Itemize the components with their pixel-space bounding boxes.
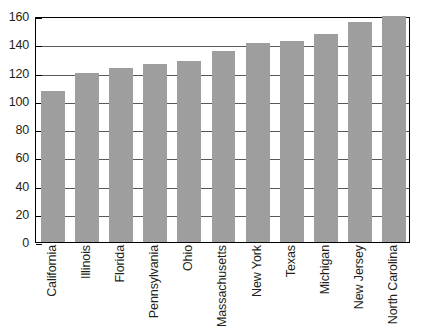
bar: [314, 34, 338, 242]
y-axis-tick-label: 80: [0, 124, 29, 136]
x-axis-tick-label: California: [46, 245, 59, 297]
bar: [75, 73, 99, 243]
bar: [143, 64, 167, 242]
x-axis-tick-label: Florida: [114, 245, 127, 283]
y-axis-tick-label: 0: [0, 237, 29, 249]
bar: [41, 91, 65, 242]
y-axis-tick-label: 140: [0, 39, 29, 51]
y-axis-tick-label: 40: [0, 181, 29, 193]
x-axis-tick-label: New York: [250, 245, 263, 297]
bar: [212, 51, 236, 242]
x-axis-tick-label: New Jersey: [353, 245, 366, 309]
x-axis-tick: California: [35, 245, 69, 324]
bar: [246, 43, 270, 242]
x-axis-tick: Massachusetts: [205, 245, 239, 324]
y-axis-tick-label: 20: [0, 209, 29, 221]
y-axis-labels: 160140120100806040200: [0, 17, 29, 243]
x-axis-tick-label: Massachusetts: [216, 245, 229, 327]
bars-layer: [36, 18, 409, 242]
x-axis-tick: Illinois: [69, 245, 103, 324]
bar: [177, 61, 201, 242]
y-axis-tick-label: 120: [0, 68, 29, 80]
x-axis-tick-label: Michigan: [319, 245, 332, 294]
x-axis-tick-label: Texas: [284, 245, 297, 277]
x-axis-tick: New Jersey: [342, 245, 376, 324]
y-axis-tick-label: 60: [0, 152, 29, 164]
bar: [109, 68, 133, 242]
x-axis-tick-label: Pennsylvania: [148, 245, 161, 318]
x-axis-tick: Ohio: [171, 245, 205, 324]
x-axis-tick: Texas: [274, 245, 308, 324]
bar: [280, 41, 304, 242]
plot-area: [35, 17, 410, 243]
bar: [348, 22, 372, 242]
x-axis-tick: Florida: [103, 245, 137, 324]
x-axis-tick: North Carolina: [376, 245, 410, 324]
x-axis-tick: Pennsylvania: [137, 245, 171, 324]
y-axis-tick-label: 160: [0, 11, 29, 23]
bar: [382, 16, 406, 242]
y-axis-tick-label: 100: [0, 96, 29, 108]
x-axis-tick-label: Ohio: [182, 245, 195, 271]
x-axis-labels: CaliforniaIllinoisFloridaPennsylvaniaOhi…: [35, 245, 410, 324]
x-axis-tick: New York: [240, 245, 274, 324]
x-axis-tick: Michigan: [308, 245, 342, 324]
x-axis-tick-label: Illinois: [80, 245, 93, 279]
x-axis-tick-label: North Carolina: [387, 245, 400, 324]
